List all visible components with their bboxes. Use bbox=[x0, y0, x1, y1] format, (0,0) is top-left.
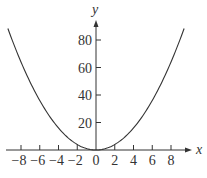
y-axis-arrow-icon bbox=[94, 20, 99, 27]
x-axis-label: x bbox=[195, 142, 203, 157]
x-tick-label: −8 bbox=[12, 153, 27, 168]
x-axis-arrow-icon bbox=[185, 148, 192, 153]
x-axis-ticks: −8−6−4−202468 bbox=[12, 145, 175, 168]
y-tick-label: 80 bbox=[78, 33, 92, 48]
parabola-chart: −8−6−4−202468 20406080 x y bbox=[0, 0, 207, 178]
x-tick-label: −6 bbox=[30, 153, 45, 168]
y-tick-label: 40 bbox=[78, 88, 92, 103]
y-tick-label: 60 bbox=[78, 61, 92, 76]
x-tick-label: −4 bbox=[49, 153, 64, 168]
x-tick-label: 8 bbox=[168, 153, 175, 168]
x-tick-label: 4 bbox=[130, 153, 137, 168]
y-axis-ticks: 20406080 bbox=[78, 33, 101, 131]
x-tick-label: 0 bbox=[93, 153, 100, 168]
x-tick-label: −2 bbox=[68, 153, 83, 168]
x-tick-label: 2 bbox=[111, 153, 118, 168]
x-tick-label: 6 bbox=[149, 153, 156, 168]
y-tick-label: 20 bbox=[78, 116, 92, 131]
y-axis-label: y bbox=[90, 2, 99, 17]
